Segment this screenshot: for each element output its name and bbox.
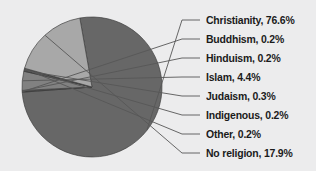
pie-chart-canvas <box>0 0 316 171</box>
pie-chart: Christianity, 76.6%Buddhism, 0.2%Hinduis… <box>0 0 316 171</box>
